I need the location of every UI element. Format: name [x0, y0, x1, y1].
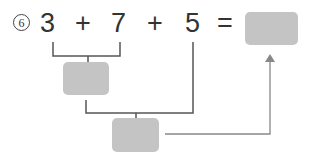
bracket-3-7 — [53, 42, 120, 56]
math-problem: 6 3 + 7 + 5 = — [0, 0, 315, 162]
arrow-up-icon — [265, 54, 275, 62]
bracket-step1-5 — [86, 42, 193, 113]
arrow-line — [165, 60, 270, 134]
connector-lines — [0, 0, 315, 162]
